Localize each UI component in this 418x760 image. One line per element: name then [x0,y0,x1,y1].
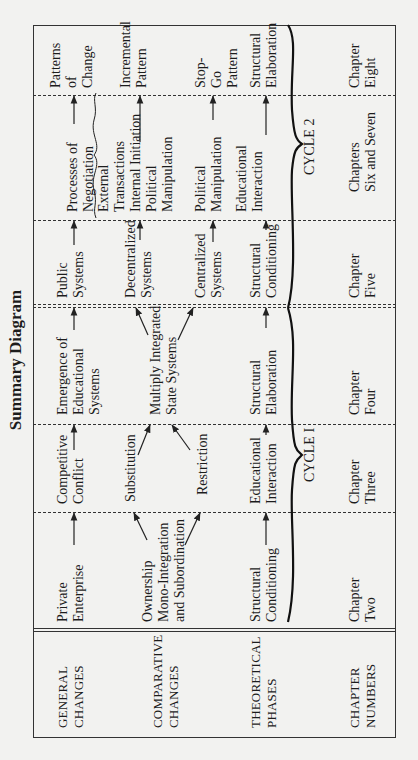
brace-icon [93,155,97,218]
arrow-icon [138,425,150,455]
brace-icon [93,93,97,155]
arrow-icon [172,425,190,450]
arrow-icon [185,513,200,545]
arrow-icon [134,513,147,540]
arrow-icon [136,308,148,335]
cycle-1-brace-icon [288,308,302,622]
cycle-2-brace-icon [288,25,302,308]
summary-diagram: Summary Diagram GENERAL CHANGES COMPARAT… [0,0,418,760]
arrow-icon [178,308,193,340]
arrows-layer [0,0,418,760]
